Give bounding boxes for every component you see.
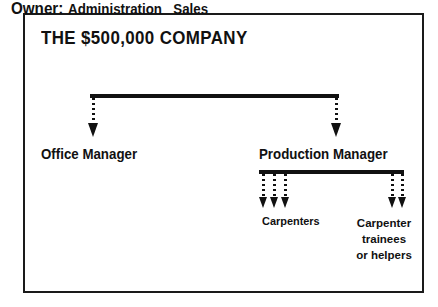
node-production-manager: Production Manager — [259, 146, 388, 162]
connector-owner-to-production-manager — [335, 98, 338, 124]
connector-production-to-trainees-2 — [401, 174, 404, 198]
owner-row: Owner:AdministrationSales — [11, 0, 427, 18]
arrowhead-carpenters-1 — [259, 197, 267, 208]
connector-production-to-carpenters-3 — [284, 174, 287, 198]
owner-connector-bar — [90, 94, 339, 98]
arrowhead-production-manager — [331, 123, 341, 137]
arrowhead-carpenters-3 — [281, 197, 289, 208]
chart-title: THE $500,000 COMPANY — [41, 28, 248, 49]
production-connector-bar — [259, 170, 404, 174]
node-carpenter-trainees-line-1: Carpenter — [349, 215, 419, 231]
node-carpenter-trainees: Carpenter trainees or helpers — [349, 215, 419, 263]
connector-production-to-carpenters-2 — [273, 174, 276, 198]
arrowhead-carpenters-2 — [270, 197, 278, 208]
sales-label: Sales — [173, 1, 208, 17]
node-carpenter-trainees-line-2: trainees — [349, 231, 419, 247]
arrowhead-office-manager — [88, 123, 98, 137]
node-office-manager: Office Manager — [41, 146, 137, 162]
administration-label: Administration — [68, 1, 162, 17]
connector-production-to-trainees-1 — [391, 174, 394, 198]
node-carpenters: Carpenters — [262, 215, 320, 227]
node-carpenter-trainees-line-3: or helpers — [349, 247, 419, 263]
arrowhead-trainees-2 — [398, 197, 406, 208]
connector-production-to-carpenters-1 — [262, 174, 265, 198]
owner-label: Owner: — [11, 0, 63, 17]
connector-owner-to-office-manager — [92, 98, 95, 124]
arrowhead-trainees-1 — [388, 197, 396, 208]
diagram-canvas: THE $500,000 COMPANY Owner:Administratio… — [0, 0, 438, 307]
